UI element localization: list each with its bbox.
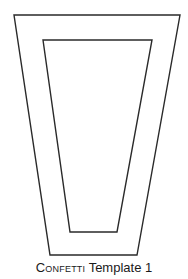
outer-trapezoid-outline	[14, 15, 180, 255]
confetti-template-figure	[0, 0, 188, 279]
figure-caption: Confetti Template 1	[0, 260, 188, 276]
caption-subtitle: Template 1	[85, 260, 152, 275]
inner-trapezoid-outline	[43, 40, 152, 232]
caption-title: Confetti	[36, 260, 85, 275]
